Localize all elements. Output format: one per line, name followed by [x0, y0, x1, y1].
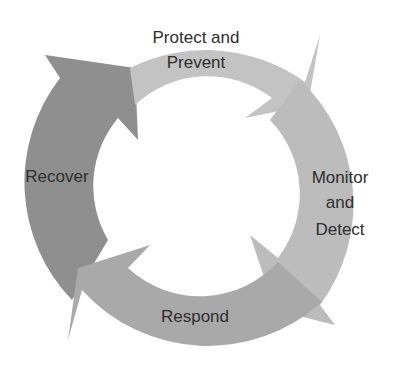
- label-monitor-and: and: [326, 193, 354, 212]
- label-detect: Detect: [315, 220, 364, 239]
- label-respond: Respond: [161, 307, 229, 326]
- label-monitor: Monitor: [312, 168, 369, 187]
- label-protect: Protect and: [153, 28, 240, 47]
- label-prevent: Prevent: [167, 53, 226, 72]
- label-recover: Recover: [25, 167, 89, 186]
- cycle-diagram: Protect and Prevent Monitor and Detect R…: [0, 0, 394, 375]
